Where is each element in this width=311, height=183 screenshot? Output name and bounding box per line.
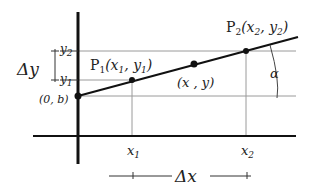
p1-label: P1(x1, y1) <box>90 57 152 75</box>
alpha-label: α <box>270 66 279 81</box>
generic-point-label: (x , y) <box>177 75 214 90</box>
point-generic <box>191 61 198 68</box>
y1-label: y1 <box>59 72 73 88</box>
delta-x-label: Δx <box>174 166 197 183</box>
point-p2 <box>243 48 249 54</box>
intercept-point <box>75 93 82 100</box>
slope-diagram: Δy y2 y1 (0, b) P1(x1, y1) P2(x2, y2) (x… <box>0 0 311 183</box>
y2-label: y2 <box>59 42 73 58</box>
p2-label: P2(x2, y2) <box>226 19 288 37</box>
intercept-label: (0, b) <box>39 93 69 106</box>
x1-label: x1 <box>127 143 140 160</box>
point-p1 <box>129 77 135 83</box>
x2-label: x2 <box>241 143 254 160</box>
delta-y-label: Δy <box>16 59 39 79</box>
